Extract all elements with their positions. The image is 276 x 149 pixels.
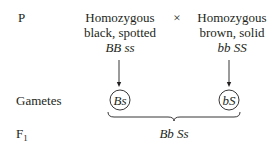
gamete-left: Bs [114,93,127,108]
arrow-right-head-icon [227,82,231,87]
row-label-gametes: Gametes [16,93,61,108]
diagram-lines [0,0,276,149]
gamete-right: bS [223,93,236,108]
arrow-left-head-icon [117,82,121,87]
brace [108,112,240,121]
f1-subscript: 1 [23,133,28,143]
offspring-genotype: Bb Ss [159,126,188,141]
row-label-f1: F1 [16,126,28,146]
